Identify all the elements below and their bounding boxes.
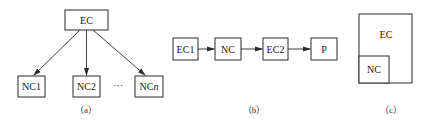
- node-nc-label: NC: [221, 44, 235, 55]
- caption-b: （b）: [243, 105, 266, 115]
- ellipsis: ···: [113, 80, 123, 91]
- node-ec1-label: EC1: [177, 44, 195, 55]
- panel-c: EC NC （c）: [359, 14, 412, 115]
- node-nc1-label: NC1: [22, 81, 41, 92]
- node-ec2-label: EC2: [267, 44, 285, 55]
- caption-a: （a）: [75, 105, 97, 115]
- edge-ec-nc1: [34, 30, 80, 75]
- edge-ec-ncn: [93, 30, 145, 75]
- diagram-canvas: EC NC1 NC2 ··· NCn （a） EC1 NC EC2 P （b） …: [0, 0, 429, 125]
- node-ec-outer-label: EC: [380, 29, 393, 40]
- node-nc2-label: NC2: [77, 81, 96, 92]
- caption-c: （c）: [380, 105, 402, 115]
- node-p-label: P: [321, 44, 327, 55]
- panel-b: EC1 NC EC2 P （b）: [173, 38, 337, 115]
- node-ec-root-label: EC: [80, 15, 93, 26]
- panel-a: EC NC1 NC2 ··· NCn （a）: [18, 10, 163, 115]
- node-nc-inner-label: NC: [367, 64, 381, 75]
- node-ncn-label: NCn: [140, 81, 159, 92]
